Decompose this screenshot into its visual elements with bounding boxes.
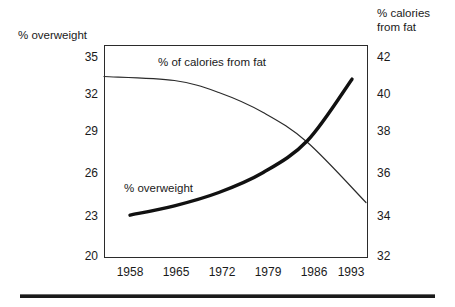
plot-area [104,45,368,258]
x-tick-1965: 1965 [156,266,196,278]
chart-figure: % overweight % calories from fat 35 32 2… [0,0,455,307]
left-tick-32: 32 [72,88,98,100]
x-tick-1958: 1958 [110,266,150,278]
series-label-overweight: % overweight [124,182,193,194]
left-axis-title: % overweight [18,28,87,42]
right-tick-36: 36 [377,167,390,179]
left-tick-35: 35 [72,51,98,63]
left-tick-23: 23 [72,210,98,222]
right-tick-40: 40 [377,88,390,100]
left-tick-26: 26 [72,167,98,179]
x-tick-1972: 1972 [202,266,242,278]
left-tick-20: 20 [72,250,98,262]
x-tick-1979: 1979 [248,266,288,278]
x-tick-1993: 1993 [331,266,371,278]
bottom-rule [20,294,435,298]
series-label-calories-from-fat: % of calories from fat [158,56,266,68]
right-tick-42: 42 [377,51,390,63]
left-tick-29: 29 [72,125,98,137]
x-tick-1986: 1986 [294,266,334,278]
right-tick-32: 32 [377,250,390,262]
right-tick-38: 38 [377,125,390,137]
right-axis-title: % calories from fat [377,6,430,34]
right-tick-34: 34 [377,210,390,222]
